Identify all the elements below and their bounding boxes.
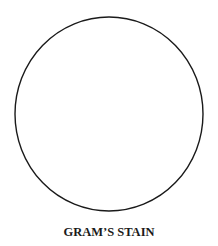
figure-caption: GRAM’S STAIN [0, 225, 218, 240]
microscope-field-circle [0, 0, 218, 246]
gram-stain-figure: GRAM’S STAIN [0, 0, 218, 246]
empty-field-circle-icon [15, 17, 203, 211]
